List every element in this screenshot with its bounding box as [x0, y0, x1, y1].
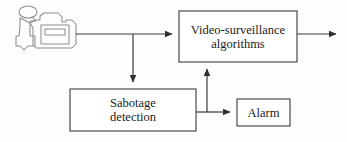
camera-icon	[16, 6, 76, 50]
node-video-surveillance-algorithms	[179, 11, 297, 62]
node-alarm	[237, 99, 290, 126]
block-diagram: Video-surveillance algorithms Sabotage d…	[0, 0, 347, 142]
diagram-canvas	[0, 0, 347, 142]
edge-sabotage-to-video	[196, 69, 207, 112]
node-sabotage-detection	[70, 89, 196, 131]
